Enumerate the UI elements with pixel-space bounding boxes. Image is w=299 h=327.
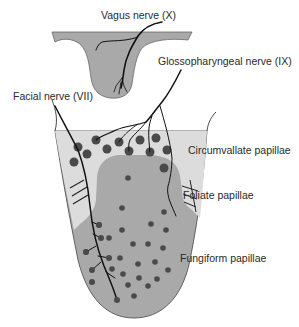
label-foliate-papillae: Foliate papillae xyxy=(183,190,254,201)
label-fungiform-papillae: Fungiform papillae xyxy=(180,253,266,264)
label-vagus-nerve: Vagus nerve (X) xyxy=(101,10,176,21)
label-facial-nerve: Facial nerve (VII) xyxy=(13,91,93,102)
label-glossopharyngeal-nerve: Glossopharyngeal nerve (IX) xyxy=(158,56,292,67)
label-circumvallate-papillae: Circumvallate papillae xyxy=(188,145,291,156)
tongue-shape xyxy=(52,100,216,318)
tongue-innervation-diagram xyxy=(0,0,299,327)
